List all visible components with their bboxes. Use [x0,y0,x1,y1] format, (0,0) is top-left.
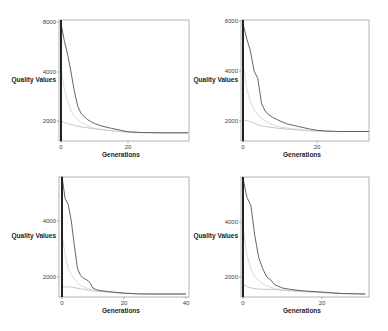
y-tick-label: 4000 [225,219,239,225]
x-tick-label: 0 [241,300,245,306]
plot-frame [241,177,369,297]
y-tick-label: 2000 [225,274,239,280]
chart-bottom-right: 40002000020GenerationsQuality Values [0,0,388,331]
x-axis-label: Generations [283,307,321,314]
x-tick-label: 20 [319,300,326,306]
chart-grid: 800040002000020GenerationsQuality Values… [0,0,388,331]
y-axis-label: Quality Values [194,232,239,240]
